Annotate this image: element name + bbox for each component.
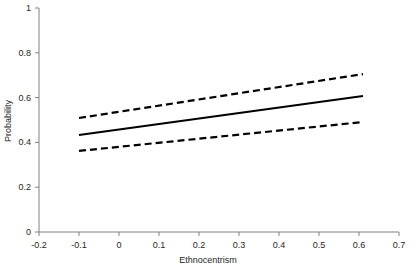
axes (35, 8, 399, 236)
x-axis-tick-label: 0.7 (379, 240, 416, 250)
y-axis-tick-label: 0.2 (0, 182, 31, 192)
x-axis-tick-label: 0.5 (299, 240, 339, 250)
x-axis-tick-label: 0.1 (139, 240, 179, 250)
series-line (79, 122, 363, 151)
y-axis-tick-label: 0.8 (0, 48, 31, 58)
series-line (79, 96, 363, 135)
x-axis-tick-label: 0.6 (339, 240, 379, 250)
y-axis-tick-label: 0 (0, 227, 31, 237)
data-series (79, 74, 363, 151)
plot-area (0, 0, 416, 277)
x-axis-tick-label: -0.2 (19, 240, 59, 250)
x-axis-tick-label: 0.4 (259, 240, 299, 250)
x-axis-tick-label: 0 (99, 240, 139, 250)
series-line (79, 74, 363, 118)
y-axis-title: Probability (3, 91, 13, 151)
x-axis-tick-label: -0.1 (59, 240, 99, 250)
y-axis-tick-label: 1 (0, 3, 31, 13)
x-axis-tick-label: 0.3 (219, 240, 259, 250)
x-axis-title: Ethnocentrism (0, 255, 416, 265)
probability-vs-ethnocentrism-chart: 00.20.40.60.81 -0.2-0.100.10.20.30.40.50… (0, 0, 416, 277)
x-axis-tick-label: 0.2 (179, 240, 219, 250)
